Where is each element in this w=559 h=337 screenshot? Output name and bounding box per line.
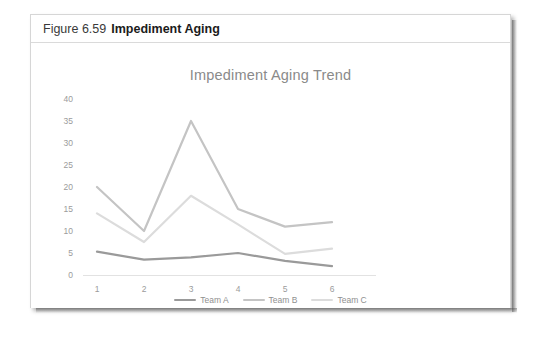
x-tick-1: 1 — [95, 284, 100, 294]
y-tick-0: 0 — [68, 270, 73, 280]
y-tick-35: 35 — [64, 116, 74, 126]
figure-number-label: Figure 6.59 — [43, 22, 106, 36]
y-tick-15: 15 — [64, 204, 74, 214]
x-tick-2: 2 — [142, 284, 147, 294]
legend-item-team-b[interactable]: Team B — [243, 295, 298, 305]
legend-item-team-c[interactable]: Team C — [311, 295, 366, 305]
y-tick-5: 5 — [68, 248, 73, 258]
series-group — [97, 121, 332, 266]
x-tick-5: 5 — [283, 284, 288, 294]
page-shadow-bottom — [36, 308, 517, 313]
chart-area: Impediment Aging Trend 40 35 30 25 20 15… — [31, 43, 510, 308]
page-root: Figure 6.59 Impediment Aging Impediment … — [0, 0, 559, 337]
y-tick-30: 30 — [64, 138, 74, 148]
legend-label-team-a: Team A — [200, 295, 228, 305]
figure-card: Figure 6.59 Impediment Aging Impediment … — [30, 14, 511, 308]
series-line-team-b — [97, 121, 332, 231]
y-tick-20: 20 — [64, 182, 74, 192]
x-tick-3: 3 — [189, 284, 194, 294]
legend-label-team-b: Team B — [269, 295, 298, 305]
legend-swatch-team-b — [243, 299, 265, 302]
series-line-team-a — [97, 252, 332, 267]
x-tick-4: 4 — [236, 284, 241, 294]
y-tick-25: 25 — [64, 160, 74, 170]
chart-legend: Team A Team B Team C — [31, 295, 510, 305]
line-chart-plot: 40 35 30 25 20 15 10 5 0 1 2 3 4 5 6 — [31, 43, 510, 308]
x-tick-6: 6 — [330, 284, 335, 294]
figure-title-label: Impediment Aging — [111, 22, 220, 36]
legend-label-team-c: Team C — [337, 295, 366, 305]
legend-swatch-team-a — [174, 299, 196, 302]
legend-item-team-a[interactable]: Team A — [174, 295, 228, 305]
figure-caption-bar: Figure 6.59 Impediment Aging — [31, 15, 510, 43]
y-tick-10: 10 — [64, 226, 74, 236]
page-shadow-right — [512, 20, 517, 312]
y-tick-40: 40 — [64, 94, 74, 104]
legend-swatch-team-c — [311, 299, 333, 302]
